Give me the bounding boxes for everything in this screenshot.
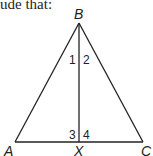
vertex-label-c: C <box>141 143 152 156</box>
segment-ab <box>15 23 79 142</box>
triangle-diagram: B A X C 1 2 3 4 <box>0 0 153 156</box>
vertex-label-a: A <box>3 143 13 156</box>
vertex-label-x: X <box>73 143 84 156</box>
segment-bc <box>79 23 143 142</box>
angle-label-1: 1 <box>69 53 76 67</box>
angle-label-4: 4 <box>83 128 90 142</box>
angle-label-3: 3 <box>69 128 76 142</box>
vertex-label-b: B <box>74 6 83 22</box>
angle-label-2: 2 <box>83 53 90 67</box>
